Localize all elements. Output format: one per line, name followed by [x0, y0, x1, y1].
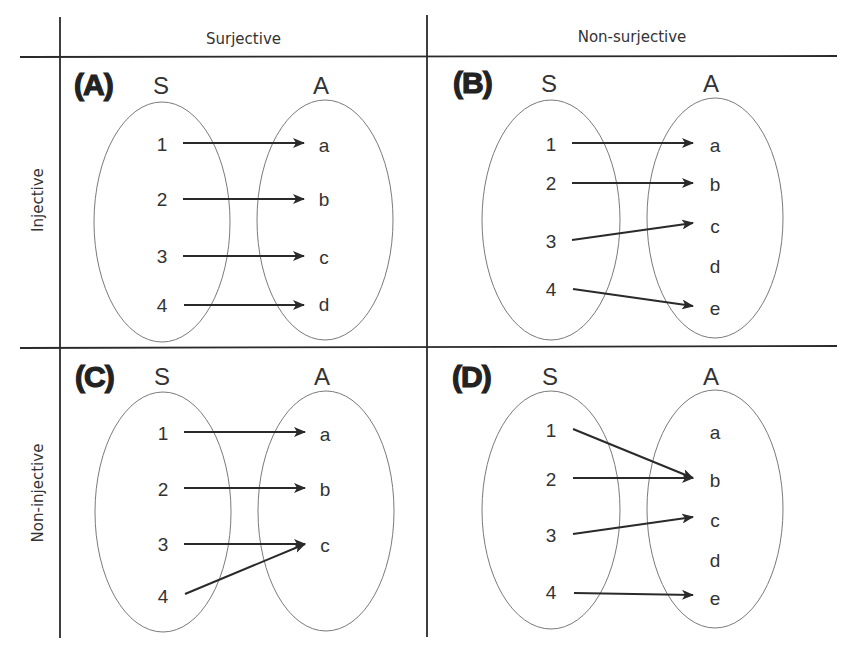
panel-b-codomain-element: e — [710, 298, 721, 320]
panel-b-graphics — [482, 98, 783, 340]
panel-a-codomain-element: d — [319, 294, 330, 316]
panel-a-codomain-element: c — [319, 247, 329, 269]
panel-a-graphics — [94, 100, 393, 342]
panel-d-codomain-element: e — [710, 588, 721, 610]
panel-d-codomain-element: a — [710, 422, 721, 444]
column-header-surjective: Surjective — [60, 30, 427, 48]
grid-lines — [20, 15, 837, 638]
panel-a-label: (A) — [74, 68, 113, 102]
panel-b-label: (B) — [453, 66, 492, 100]
panel-d-codomain-element: b — [710, 470, 721, 492]
panel-d-domain-element: 3 — [546, 525, 557, 547]
arrow-4-to-c — [185, 544, 305, 594]
panel-a-domain-element: 3 — [157, 246, 168, 268]
panel-d-domain-label: S — [542, 363, 558, 391]
panel-d-domain-element: 1 — [546, 420, 557, 442]
panel-c-codomain-label: A — [314, 363, 330, 391]
arrow-3-to-c — [572, 223, 693, 240]
panel-a-domain-element: 4 — [157, 295, 168, 317]
panel-d-codomain-label: A — [703, 363, 719, 391]
panel-a-domain-element: 1 — [157, 134, 168, 156]
grid-horizontal-middle — [20, 346, 837, 348]
panel-d-domain-element: 4 — [546, 582, 557, 604]
panel-c-domain-element: 1 — [158, 423, 169, 445]
row-header-non-injective: Non-injective — [29, 433, 47, 553]
panel-d-codomain-element: d — [710, 550, 721, 572]
panel-a-codomain-label: A — [313, 72, 329, 100]
function-classification-diagram: Surjective Non-surjective Injective Non-… — [0, 0, 841, 651]
panel-b-codomain-element: b — [710, 174, 721, 196]
panel-b-codomain-label: A — [703, 70, 719, 98]
panel-a-domain-label: S — [153, 72, 169, 100]
panel-c-domain-element: 2 — [158, 479, 169, 501]
panel-c-domain-element: 3 — [158, 534, 169, 556]
panel-c-domain-label: S — [154, 363, 170, 391]
arrow-4-to-e — [574, 593, 693, 595]
panel-a-domain-element: 2 — [157, 189, 168, 211]
panel-a-codomain-element: b — [319, 189, 330, 211]
panel-b-codomain-element: a — [710, 135, 721, 157]
row-header-injective: Injective — [29, 150, 47, 250]
panel-b-domain-element: 4 — [546, 279, 557, 301]
panel-d-domain-element: 2 — [546, 469, 557, 491]
arrow-3-to-c — [573, 517, 693, 534]
panel-b-codomain-element: c — [710, 216, 720, 238]
panel-d-graphics — [482, 390, 783, 629]
column-header-non-surjective: Non-surjective — [427, 28, 837, 46]
panel-c-domain-element: 4 — [158, 586, 169, 608]
panel-b-domain-element: 3 — [546, 231, 557, 253]
panel-a-codomain-element: a — [319, 135, 330, 157]
panel-c-codomain-element: a — [320, 424, 331, 446]
panel-d-codomain-element: c — [710, 510, 720, 532]
panel-c-codomain-element: c — [320, 535, 330, 557]
panel-b-domain-element: 2 — [546, 173, 557, 195]
panel-b-domain-label: S — [541, 70, 557, 98]
grid-horizontal-top — [20, 56, 837, 57]
panel-b-domain-element: 1 — [546, 134, 557, 156]
panel-c-label: (C) — [75, 360, 114, 394]
panel-c-codomain-element: b — [320, 479, 331, 501]
panel-d-label: (D) — [452, 360, 491, 394]
arrow-1-to-b — [573, 429, 693, 478]
panel-b-codomain-element: d — [710, 256, 721, 278]
arrow-4-to-e — [573, 289, 693, 306]
panel-c-graphics — [95, 391, 394, 632]
